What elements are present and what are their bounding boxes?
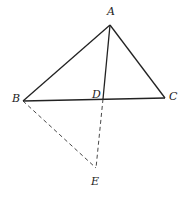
label-a: A xyxy=(106,5,115,18)
label-c: C xyxy=(169,90,178,103)
segment-ad xyxy=(103,25,110,99)
label-d: D xyxy=(91,88,101,101)
label-b: B xyxy=(11,92,20,105)
segment-ac xyxy=(110,25,165,98)
geometry-diagram: A B C D E xyxy=(0,0,185,200)
segment-de-dashed xyxy=(96,99,103,168)
segment-be-dashed xyxy=(23,101,96,168)
label-e: E xyxy=(90,175,99,188)
